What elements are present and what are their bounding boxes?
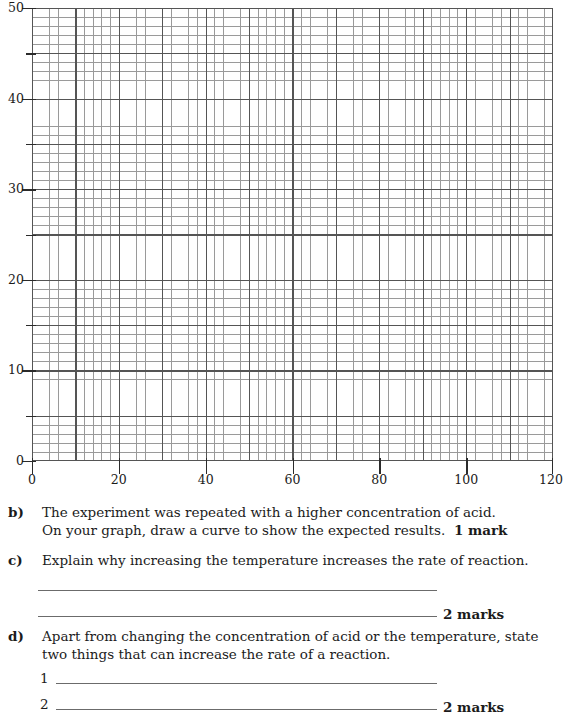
y-axis-label-0: 0 bbox=[0, 455, 24, 468]
question-d-text: Apart from changing the concentration of… bbox=[42, 628, 552, 663]
question-c-marks: 2 marks bbox=[443, 607, 504, 622]
question-d-line1: Apart from changing the concentration of… bbox=[42, 628, 539, 644]
graph-grid[interactable] bbox=[32, 8, 553, 461]
x-axis-label-80: 80 bbox=[359, 474, 399, 487]
y-tick-50 bbox=[22, 8, 36, 9]
question-d-label: d) bbox=[8, 628, 24, 645]
x-axis-label-120: 120 bbox=[531, 474, 567, 487]
x-axis-label-60: 60 bbox=[273, 474, 313, 487]
y-tick-45 bbox=[26, 53, 36, 54]
question-b-text: The experiment was repeated with a highe… bbox=[42, 504, 552, 539]
question-c-answer-line-1[interactable] bbox=[38, 590, 437, 591]
y-tick-25 bbox=[26, 235, 36, 236]
graph-figure: 50 40 30 20 10 0 0 20 40 60 80 100 120 bbox=[0, 0, 567, 495]
y-tick-35 bbox=[26, 144, 36, 145]
x-axis-label-0: 0 bbox=[12, 474, 52, 487]
question-c-text: Explain why increasing the temperature i… bbox=[42, 552, 552, 570]
question-d-answer-line-2[interactable] bbox=[56, 709, 437, 710]
y-tick-40 bbox=[22, 99, 36, 100]
grid-right-edge bbox=[552, 8, 553, 461]
question-b-label: b) bbox=[8, 504, 24, 521]
question-d-marks: 2 marks bbox=[443, 700, 504, 715]
question-c-label: c) bbox=[8, 552, 23, 569]
y-axis-label-10: 10 bbox=[0, 364, 24, 377]
y-axis-label-20: 20 bbox=[0, 274, 24, 287]
question-d-item-1-number: 1 bbox=[40, 671, 49, 686]
x-axis-label-100: 100 bbox=[446, 474, 486, 487]
y-axis-label-30: 30 bbox=[0, 183, 24, 196]
y-axis-label-50: 50 bbox=[0, 2, 24, 15]
y-axis-label-40: 40 bbox=[0, 93, 24, 106]
y-tick-10 bbox=[22, 370, 36, 371]
y-tick-15 bbox=[26, 325, 36, 326]
question-c-answer-line-2[interactable] bbox=[38, 616, 437, 617]
y-tick-0 bbox=[22, 461, 36, 462]
y-tick-5 bbox=[26, 416, 36, 417]
y-tick-30 bbox=[22, 189, 36, 190]
question-d-answer-line-1[interactable] bbox=[56, 683, 437, 684]
question-d-line2: two things that can increase the rate of… bbox=[42, 646, 390, 662]
x-axis-label-40: 40 bbox=[186, 474, 226, 487]
question-b-marks: 1 mark bbox=[454, 522, 508, 538]
y-tick-20 bbox=[22, 280, 36, 281]
question-b-line2: On your graph, draw a curve to show the … bbox=[42, 522, 445, 538]
question-b-line1: The experiment was repeated with a highe… bbox=[42, 504, 496, 520]
question-c-line1: Explain why increasing the temperature i… bbox=[42, 552, 529, 568]
question-d-item-2-number: 2 bbox=[40, 697, 49, 712]
x-axis-label-20: 20 bbox=[99, 474, 139, 487]
